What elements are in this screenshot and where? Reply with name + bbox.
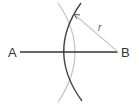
point-b-label: B [121,45,130,60]
point-a-label: A [8,45,17,60]
construction-diagram: A B r [0,0,139,110]
radius-label: r [98,22,102,33]
radius-line [74,14,118,52]
